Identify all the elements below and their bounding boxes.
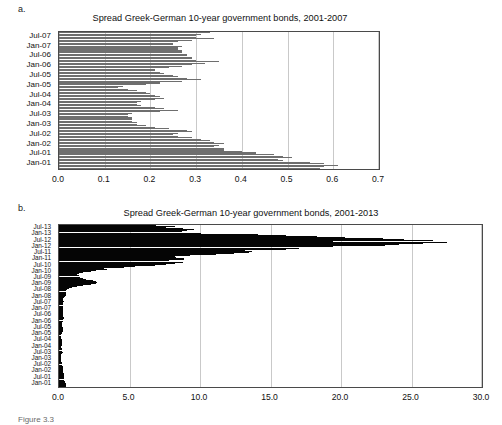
x-tick-label: 0.7 [372,174,384,184]
y-tick-label: Jan-05 [27,81,51,89]
chart-b-y-axis-labels: Jul-13Jan-13Jul-12Jan-12Jul-11Jan-11Jul-… [0,224,55,388]
chart-b-title: Spread Greek-German 10-year government b… [0,208,502,218]
y-tick-label: Jul-06 [29,51,51,59]
y-tick-label: Jan-01 [27,159,51,167]
x-tick-label: 0.6 [326,174,338,184]
chart-a-y-axis-labels: Jul-07Jan-07Jul-06Jan-06Jul-05Jan-05Jul-… [0,31,55,170]
chart-a-title: Spread Greek-German 10-year government b… [0,13,440,23]
x-tick-label: 0.2 [143,174,155,184]
figure-caption: Figure 3.3 [18,415,54,425]
bar [59,386,66,387]
chart-b-x-axis-labels: 0.05.010.015.020.025.030.0 [58,392,483,406]
x-tick-label: 20.0 [332,392,349,402]
y-tick-label: Jan-01 [31,380,51,386]
y-tick-label: Jul-05 [29,71,51,79]
y-tick-label: Jul-04 [29,91,51,99]
chart-a-x-axis-labels: 0.00.10.20.30.40.50.60.7 [58,174,380,188]
x-tick-label: 0.4 [235,174,247,184]
y-tick-label: Jul-02 [29,130,51,138]
bar [59,168,320,169]
x-tick-label: 30.0 [473,392,490,402]
figure-container: a. Spread Greek-German 10-year governmen… [0,0,502,425]
chart-b-plot-area [58,224,483,388]
x-tick-label: 0.1 [98,174,110,184]
chart-a-plot-area [58,31,380,170]
x-tick-label: 0.3 [189,174,201,184]
y-tick-label: Jul-03 [29,110,51,118]
y-tick-label: Jan-02 [27,140,51,148]
y-tick-label: Jul-07 [29,32,51,40]
x-tick-label: 25.0 [402,392,419,402]
y-tick-label: Jan-06 [27,61,51,69]
chart-b-bars [59,225,482,387]
x-tick-label: 0.5 [281,174,293,184]
x-tick-label: 0.0 [52,174,64,184]
y-tick-label: Jul-01 [29,149,51,157]
x-tick-label: 5.0 [123,392,135,402]
y-tick-label: Jan-03 [27,120,51,128]
y-tick-label: Jan-04 [27,100,51,108]
x-tick-label: 15.0 [261,392,278,402]
x-tick-label: 0.0 [52,392,64,402]
y-tick-label: Jan-07 [27,42,51,50]
chart-a-bars [59,32,379,169]
x-tick-label: 10.0 [191,392,208,402]
